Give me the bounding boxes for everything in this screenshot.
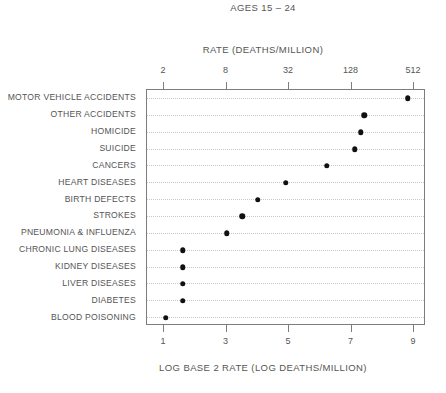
- top-tick-mark: [351, 82, 352, 89]
- data-point: [239, 214, 245, 220]
- top-tick-mark: [163, 82, 164, 89]
- gridline: [147, 300, 424, 302]
- gridline: [147, 216, 424, 218]
- gridline: [147, 115, 424, 117]
- bottom-axis-title: LOG BASE 2 RATE (LOG DEATHS/MILLION): [40, 362, 446, 373]
- bottom-tick-mark: [413, 325, 414, 332]
- gridline: [147, 283, 424, 285]
- category-label: CANCERS: [0, 160, 136, 170]
- data-point: [361, 113, 367, 119]
- gridline: [147, 233, 424, 235]
- category-label: DIABETES: [0, 295, 136, 305]
- data-point: [283, 180, 289, 186]
- data-point: [180, 281, 186, 287]
- bottom-tick-label: 3: [223, 336, 228, 346]
- category-label: HOMICIDE: [0, 126, 136, 136]
- bottom-tick-label: 5: [285, 336, 290, 346]
- data-point: [352, 146, 358, 152]
- gridline: [147, 317, 424, 319]
- top-tick-label: 2: [160, 65, 165, 75]
- gridline: [147, 199, 424, 201]
- top-tick-label: 32: [283, 65, 293, 75]
- data-point: [324, 163, 330, 169]
- bottom-tick-label: 9: [410, 336, 415, 346]
- category-label: LIVER DISEASES: [0, 278, 136, 288]
- top-tick-label: 128: [343, 65, 358, 75]
- top-tick-label: 512: [405, 65, 420, 75]
- category-label: HEART DISEASES: [0, 177, 136, 187]
- gridline: [147, 250, 424, 252]
- category-label: CHRONIC LUNG DISEASES: [0, 244, 136, 254]
- gridline: [147, 165, 424, 167]
- top-tick-mark: [226, 82, 227, 89]
- top-axis-title: RATE (DEATHS/MILLION): [40, 44, 446, 55]
- gridline: [147, 267, 424, 269]
- data-point: [180, 247, 186, 253]
- bottom-tick-label: 7: [348, 336, 353, 346]
- data-point: [180, 264, 186, 270]
- data-point: [358, 129, 364, 135]
- plot-inner: [147, 90, 424, 324]
- data-point: [255, 197, 261, 203]
- bottom-tick-mark: [163, 325, 164, 332]
- category-label: STROKES: [0, 210, 136, 220]
- gridline: [147, 98, 424, 100]
- bottom-tick-mark: [351, 325, 352, 332]
- category-label: SUICIDE: [0, 143, 136, 153]
- plot-area: [146, 89, 425, 325]
- dot-chart: AGES 15 – 24 RATE (DEATHS/MILLION) 28321…: [0, 0, 446, 393]
- top-tick-mark: [288, 82, 289, 89]
- category-label: BIRTH DEFECTS: [0, 194, 136, 204]
- category-label: BLOOD POISONING: [0, 312, 136, 322]
- category-label: PNEUMONIA & INFLUENZA: [0, 227, 136, 237]
- data-point: [180, 298, 186, 304]
- bottom-tick-label: 1: [160, 336, 165, 346]
- top-tick-label: 8: [223, 65, 228, 75]
- bottom-tick-mark: [226, 325, 227, 332]
- data-point: [405, 96, 411, 102]
- gridline: [147, 132, 424, 134]
- category-label: KIDNEY DISEASES: [0, 261, 136, 271]
- chart-title: AGES 15 – 24: [40, 2, 446, 13]
- category-axis-labels: MOTOR VEHICLE ACCIDENTSOTHER ACCIDENTSHO…: [0, 89, 141, 325]
- category-label: MOTOR VEHICLE ACCIDENTS: [0, 92, 136, 102]
- data-point: [163, 315, 169, 321]
- gridline: [147, 149, 424, 151]
- bottom-tick-mark: [288, 325, 289, 332]
- data-point: [224, 231, 230, 237]
- category-label: OTHER ACCIDENTS: [0, 109, 136, 119]
- top-tick-mark: [413, 82, 414, 89]
